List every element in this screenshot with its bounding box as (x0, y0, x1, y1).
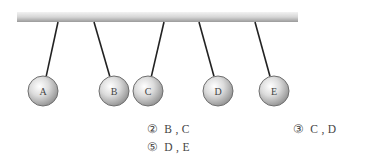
pendulum-c: C (133, 22, 164, 106)
pendulum-b: B (94, 22, 129, 106)
pendulum-diagram: ABCDE (0, 0, 370, 120)
ball-label-d: D (214, 86, 221, 97)
option-3-number: ③ (293, 123, 304, 135)
option-5-number: ⑤ (147, 141, 158, 153)
option-3-text: C , D (310, 123, 336, 135)
support-bar (17, 12, 298, 22)
ball-label-e: E (271, 86, 277, 97)
option-2-text: B , C (164, 123, 189, 135)
string-a (46, 22, 58, 76)
ball-label-b: B (111, 86, 118, 97)
ball-label-c: C (145, 86, 152, 97)
option-2: ②B , C (147, 122, 190, 136)
string-b (94, 22, 110, 77)
pendulum-e: E (255, 22, 289, 106)
option-5: ⑤D , E (147, 140, 190, 154)
string-c (151, 22, 164, 76)
option-3: ③C , D (293, 122, 336, 136)
string-d (199, 22, 214, 77)
string-e (255, 22, 270, 77)
pendulum-a: A (28, 22, 58, 106)
ball-label-a: A (39, 86, 47, 97)
option-5-text: D , E (164, 141, 189, 153)
pendulum-d: D (199, 22, 233, 106)
option-2-number: ② (147, 123, 158, 135)
